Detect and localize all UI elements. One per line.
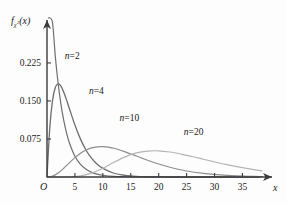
axes-group <box>43 20 272 181</box>
chart-canvas <box>0 0 287 205</box>
curves-group <box>47 18 262 177</box>
ticks-group <box>47 63 242 177</box>
chi-squared-pdf-figure: 5101520253035 0.0750.1500.225 n=2n=4n=10… <box>0 0 287 205</box>
